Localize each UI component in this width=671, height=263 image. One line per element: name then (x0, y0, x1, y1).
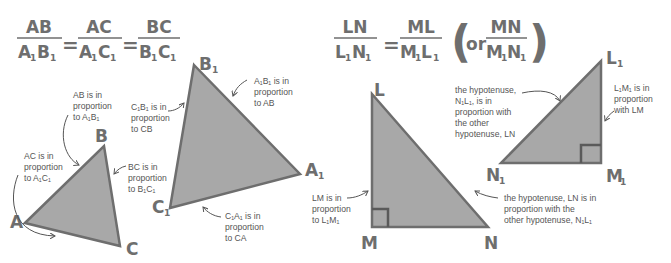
svg-text:proportion: proportion (254, 87, 293, 97)
arrow-c1a1 (203, 207, 221, 217)
arrow-a1b1 (233, 80, 247, 96)
svg-text:LM is in: LM is in (312, 193, 342, 203)
note-a1b1: A₁B₁ is in proportion to AB (254, 76, 293, 108)
svg-text:proportion with the: proportion with the (504, 204, 575, 214)
similar-triangles-diagram: AB A 1 B 1 = AC A 1 C 1 = BC B 1 C 1 LN (0, 0, 671, 263)
vertex-m: M (361, 233, 378, 253)
svg-text:proportion: proportion (614, 94, 653, 104)
fraction-ab: AB A 1 B 1 (17, 17, 62, 63)
vertex-l1: L (606, 48, 617, 68)
svg-text:to CB: to CB (131, 124, 153, 134)
close-paren: ) (529, 16, 549, 67)
svg-text:proportion: proportion (131, 113, 170, 123)
svg-text:the hypotenuse,: the hypotenuse, (455, 85, 516, 95)
equals-sign: = (122, 33, 139, 57)
equals-sign: = (62, 33, 79, 57)
svg-text:AB: AB (26, 17, 52, 37)
arrow-l1m1 (605, 111, 614, 121)
vertex-b1: B (199, 54, 212, 74)
svg-text:1: 1 (212, 65, 218, 75)
vertex-c: C (126, 239, 138, 259)
svg-text:to L₁M₁: to L₁M₁ (312, 215, 339, 225)
svg-text:proportion: proportion (73, 101, 112, 111)
vertex-c1: C (152, 197, 164, 217)
svg-text:1: 1 (164, 208, 170, 218)
svg-text:to AB: to AB (254, 98, 275, 108)
svg-text:N₁L₁, is in: N₁L₁, is in (455, 96, 492, 106)
svg-text:1: 1 (50, 53, 56, 63)
note-n1l1: the hypotenuse, N₁L₁, is in proportion w… (455, 85, 516, 139)
svg-text:proportion: proportion (225, 222, 264, 232)
fraction-ac: AC A 1 C 1 (78, 17, 122, 63)
note-bc: BC is in proportion to B₁C₁ (128, 162, 167, 194)
note-c1b1: C₁B₁ is in proportion to CB (131, 102, 170, 134)
note-ac: AC is in proportion to A₁C₁ (24, 151, 63, 183)
svg-text:L: L (421, 42, 432, 62)
svg-text:AC: AC (86, 17, 112, 37)
svg-text:MN: MN (490, 17, 521, 37)
fraction-mn: MN M 1 N 1 (486, 17, 527, 63)
svg-text:BC: BC (146, 17, 171, 37)
svg-text:1: 1 (110, 53, 116, 63)
svg-text:1: 1 (520, 53, 526, 63)
svg-text:the other: the other (455, 118, 489, 128)
svg-text:1: 1 (433, 53, 439, 63)
arrow-ln (475, 191, 498, 198)
svg-text:1: 1 (617, 59, 623, 69)
arrow-c1b1 (168, 103, 184, 111)
svg-text:hypotenuse, LN: hypotenuse, LN (455, 129, 515, 139)
svg-text:1: 1 (620, 177, 626, 187)
vertex-b: B (95, 126, 108, 146)
svg-text:C: C (158, 42, 170, 62)
vertex-n: N (484, 233, 498, 253)
fraction-bc: BC B 1 C 1 (138, 17, 180, 63)
note-c1a1: C₁A₁ is in proportion to CA (225, 211, 264, 243)
fraction-ln: LN L 1 N 1 (334, 17, 377, 63)
svg-text:AC is in: AC is in (24, 151, 54, 161)
svg-text:to A₁C₁: to A₁C₁ (24, 173, 51, 183)
svg-text:1: 1 (318, 171, 324, 181)
svg-text:proportion with: proportion with (455, 107, 512, 117)
svg-text:1: 1 (151, 53, 157, 63)
svg-text:proportion: proportion (24, 162, 63, 172)
svg-text:1: 1 (170, 53, 176, 63)
note-l1m1: L₁M₁ is in proportion with LM (613, 83, 653, 115)
arrow-ab (63, 115, 79, 165)
svg-text:1: 1 (499, 176, 505, 186)
svg-text:1: 1 (30, 53, 36, 63)
svg-text:1: 1 (91, 53, 97, 63)
fraction-ml: ML M 1 L 1 (400, 17, 442, 63)
svg-text:1: 1 (345, 53, 351, 63)
svg-text:proportion: proportion (128, 173, 167, 183)
equals-sign: = (383, 33, 400, 57)
svg-text:the hypotenuse, LN is in: the hypotenuse, LN is in (504, 193, 596, 203)
svg-text:LN: LN (342, 17, 367, 37)
triangle-a1b1c1: B 1 A 1 C 1 C₁B₁ is in proportion to CB … (131, 54, 324, 243)
svg-text:proportion: proportion (312, 204, 351, 214)
svg-text:BC is in: BC is in (128, 162, 158, 172)
arrow-bc (114, 166, 126, 174)
vertex-l: L (374, 80, 385, 100)
svg-text:B: B (37, 42, 50, 62)
triangle-l1m1n1-shape (501, 61, 601, 163)
svg-text:other hypotenuse, N₁L₁: other hypotenuse, N₁L₁ (504, 215, 592, 225)
svg-text:C: C (98, 42, 110, 62)
right-proportion-formula: LN L 1 N 1 = ML M 1 L 1 ( or MN M 1 N 1 … (334, 16, 549, 67)
note-lm: LM is in proportion to L₁M₁ (312, 193, 351, 225)
note-ab: AB is in proportion to A₁B₁ (73, 90, 112, 122)
svg-text:to A₁B₁: to A₁B₁ (73, 112, 99, 122)
svg-text:ML: ML (407, 17, 435, 37)
svg-text:AB is in: AB is in (73, 90, 102, 100)
svg-text:to CA: to CA (225, 233, 247, 243)
or-label: or (466, 34, 487, 54)
arrow-lm (347, 191, 368, 198)
svg-text:C₁A₁ is in: C₁A₁ is in (225, 211, 261, 221)
vertex-a1: A (305, 160, 319, 180)
svg-text:with LM: with LM (613, 105, 644, 115)
svg-text:to B₁C₁: to B₁C₁ (128, 184, 155, 194)
note-ln: the hypotenuse, LN is in proportion with… (504, 193, 596, 225)
arrow-n1l1 (522, 91, 560, 101)
svg-text:A₁B₁ is in: A₁B₁ is in (254, 76, 289, 86)
svg-text:C₁B₁ is in: C₁B₁ is in (131, 102, 167, 112)
svg-text:L₁M₁ is in: L₁M₁ is in (614, 83, 650, 93)
